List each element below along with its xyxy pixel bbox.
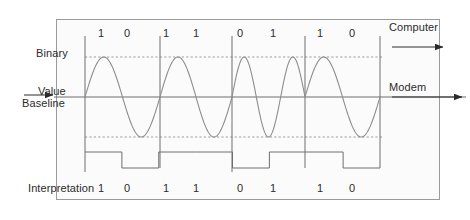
binary-value-bit-5: 1: [266, 27, 280, 39]
interpretation-bit-4: 0: [233, 182, 247, 194]
interpretation-bit-3: 1: [189, 182, 203, 194]
interpretation-bit-0: 1: [94, 182, 108, 194]
binary-value-line1: Binary: [36, 47, 68, 60]
interpretation-bit-7: 0: [345, 182, 359, 194]
binary-value-bit-6: 1: [313, 27, 327, 39]
binary-value-bit-2: 1: [159, 27, 173, 39]
binary-value-bit-0: 1: [94, 27, 108, 39]
binary-value-bit-4: 0: [233, 27, 247, 39]
binary-value-bit-3: 1: [189, 27, 203, 39]
computer-label: Computer: [389, 21, 438, 34]
interpretation-bit-2: 1: [159, 182, 173, 194]
interpretation-label: Interpretation: [28, 182, 94, 195]
diagram-root: Binary Value Baseline Computer Modem Int…: [0, 0, 470, 220]
interpretation-bit-5: 1: [266, 182, 280, 194]
binary-value-bit-1: 0: [120, 27, 134, 39]
interpretation-bit-6: 1: [313, 182, 327, 194]
binary-value-line2: Value: [36, 85, 68, 98]
interpretation-bit-1: 0: [120, 182, 134, 194]
diagram-frame: [56, 19, 440, 200]
baseline-label: Baseline: [22, 97, 65, 110]
binary-value-bit-7: 0: [345, 27, 359, 39]
modem-label: Modem: [389, 81, 426, 94]
